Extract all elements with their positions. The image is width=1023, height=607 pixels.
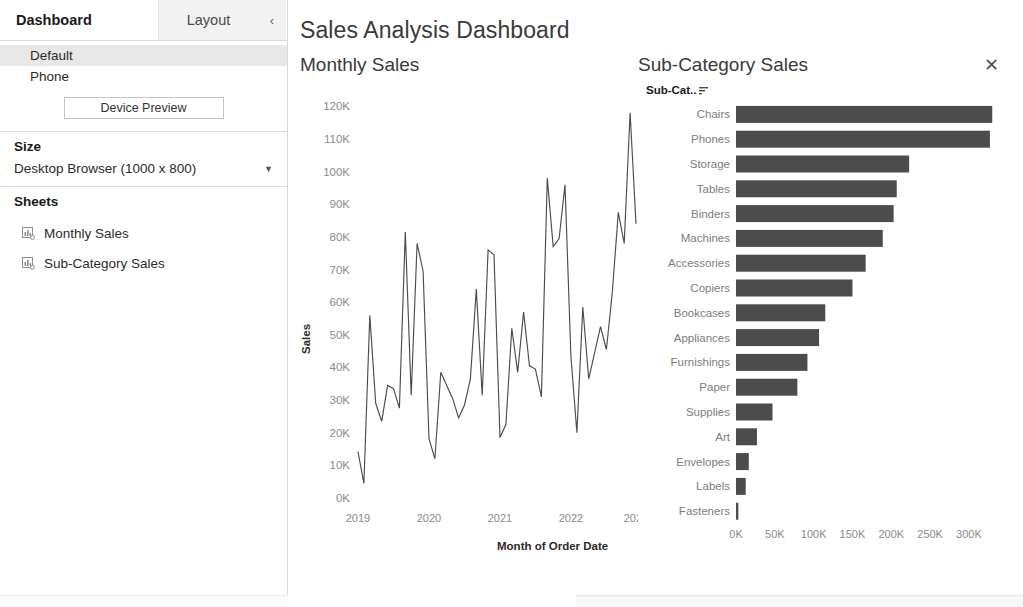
sub-category-field-label: Sub-Cat.. [646,84,696,96]
svg-text:30K: 30K [330,394,351,406]
size-dropdown[interactable]: Desktop Browser (1000 x 800) ▼ [14,159,287,178]
svg-text:Paper: Paper [699,381,730,393]
svg-text:Machines: Machines [681,232,730,244]
size-dropdown-value: Desktop Browser (1000 x 800) [14,161,196,176]
svg-text:Storage: Storage [690,158,730,170]
device-mode-default-label: Default [30,48,73,63]
svg-text:300K: 300K [956,528,982,540]
sheets-section: Sheets Monthly Sales [0,187,287,286]
svg-text:0K: 0K [336,492,350,504]
pane-monthly-sales: Monthly Sales Sales 0K10K20K30K40K50K60K… [288,54,638,554]
device-mode-list: Default Phone [0,41,287,87]
svg-text:Tables: Tables [697,183,730,195]
sheet-item-sub-category-sales-label: Sub-Category Sales [44,256,165,271]
svg-text:Copiers: Copiers [690,282,730,294]
svg-text:10K: 10K [330,459,351,471]
svg-text:Supplies: Supplies [686,406,730,418]
left-sidebar: Dashboard Layout ‹ Default Phone Device … [0,0,288,607]
sub-category-field-header[interactable]: Sub-Cat.. [646,84,708,96]
svg-text:90K: 90K [330,198,351,210]
svg-text:20K: 20K [330,427,351,439]
sub-category-sales-chart[interactable]: Sub-Cat.. ChairsPhonesStorageTablesBinde… [640,84,1018,554]
sub-category-sales-plot: ChairsPhonesStorageTablesBindersMachines… [640,98,1018,554]
svg-text:2023: 2023 [624,512,638,524]
monthly-sales-plot: 0K10K20K30K40K50K60K70K80K90K100K110K120… [300,84,638,554]
sidebar-tabs: Dashboard Layout ‹ [0,0,287,41]
device-preview-button[interactable]: Device Preview [64,97,224,119]
size-section: Size Desktop Browser (1000 x 800) ▼ [0,132,287,186]
svg-text:100K: 100K [323,166,350,178]
device-mode-phone-label: Phone [30,69,69,84]
svg-text:Art: Art [715,431,731,443]
chevron-down-icon: ▼ [264,164,273,174]
tab-dashboard[interactable]: Dashboard [0,0,158,40]
dashboard-panes: Monthly Sales Sales 0K10K20K30K40K50K60K… [288,54,1023,554]
worksheet-icon [22,257,35,270]
worksheet-icon [22,227,35,240]
tab-layout-label: Layout [187,12,231,28]
svg-text:110K: 110K [324,133,350,145]
svg-text:150K: 150K [840,528,866,540]
svg-text:50K: 50K [330,329,351,341]
device-preview-row: Device Preview [0,87,287,131]
svg-text:Binders: Binders [691,208,730,220]
sort-descending-icon[interactable] [699,86,708,95]
tableau-dashboard-window: Dashboard Layout ‹ Default Phone Device … [0,0,1023,607]
tab-layout[interactable]: Layout [158,0,258,40]
svg-text:70K: 70K [330,264,351,276]
page-title: Sales Analysis Dashboard [288,0,1023,44]
svg-text:100K: 100K [801,528,827,540]
device-preview-label: Device Preview [100,101,186,115]
svg-text:Labels: Labels [696,480,730,492]
tab-dashboard-label: Dashboard [16,12,92,28]
dashboard-bottom-strip [576,595,1023,607]
sheet-item-monthly-sales-label: Monthly Sales [44,226,129,241]
size-section-title: Size [14,139,287,154]
svg-text:Phones: Phones [691,133,730,145]
svg-text:50K: 50K [765,528,785,540]
dashboard-canvas: Sales Analysis Dashboard Monthly Sales S… [288,0,1023,607]
svg-text:Month of Order Date: Month of Order Date [497,540,608,552]
svg-text:200K: 200K [878,528,904,540]
sheet-item-sub-category-sales[interactable]: Sub-Category Sales [14,248,287,278]
svg-text:2022: 2022 [559,512,583,524]
svg-text:250K: 250K [917,528,943,540]
svg-text:80K: 80K [330,231,351,243]
svg-text:60K: 60K [330,296,351,308]
device-mode-phone[interactable]: Phone [0,66,287,87]
svg-text:Envelopes: Envelopes [676,456,730,468]
monthly-sales-chart[interactable]: Sales 0K10K20K30K40K50K60K70K80K90K100K1… [300,84,638,554]
svg-text:Furnishings: Furnishings [671,356,731,368]
sheets-section-title: Sheets [14,194,287,209]
sheet-item-monthly-sales[interactable]: Monthly Sales [14,218,287,248]
svg-text:Appliances: Appliances [674,332,731,344]
chevron-left-icon[interactable]: ‹ [258,0,286,40]
close-icon[interactable]: ✕ [984,56,999,74]
svg-text:40K: 40K [330,361,351,373]
pane-sub-category-sales-title: Sub-Category Sales [638,54,1023,76]
pane-sub-category-sales: Sub-Category Sales ✕ Sub-Cat.. ChairsPho… [638,54,1023,554]
sheets-list: Monthly Sales Sub-Category Sales [14,214,287,278]
svg-text:2021: 2021 [488,512,512,524]
svg-text:Fasteners: Fasteners [679,505,730,517]
svg-text:Accessories: Accessories [668,257,730,269]
svg-text:2020: 2020 [417,512,441,524]
svg-text:Bookcases: Bookcases [674,307,731,319]
svg-text:120K: 120K [323,100,350,112]
svg-text:0K: 0K [729,528,743,540]
svg-text:2019: 2019 [346,512,370,524]
sidebar-bottom-strip [0,595,288,607]
pane-monthly-sales-title: Monthly Sales [300,54,638,76]
svg-text:Chairs: Chairs [697,108,730,120]
device-mode-default[interactable]: Default [0,45,287,66]
